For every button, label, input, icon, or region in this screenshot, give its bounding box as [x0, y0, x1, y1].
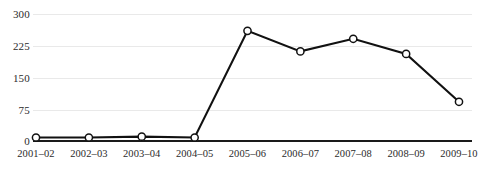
- line-chart: 300 225 150 75 0 2001–022002–032003–0420…: [0, 0, 480, 169]
- y-tick-label-150: 150: [0, 73, 30, 84]
- y-tick-label-225: 225: [0, 41, 30, 52]
- data-point-marker: [138, 133, 145, 140]
- data-point-marker: [455, 98, 462, 105]
- x-tick-label: 2007–08: [335, 148, 372, 160]
- x-tick-label: 2004–05: [176, 148, 213, 160]
- y-axis: 300 225 150 75 0: [0, 0, 30, 169]
- y-tick-label-75: 75: [0, 105, 30, 116]
- marker-group: [32, 27, 462, 141]
- x-tick-label: 2002–03: [70, 148, 107, 160]
- y-tick-label-0: 0: [0, 136, 30, 147]
- x-tick-label: 2008–09: [387, 148, 424, 160]
- data-point-marker: [191, 134, 198, 141]
- plot-area: [33, 0, 480, 169]
- x-tick-label: 2006–07: [282, 148, 319, 160]
- data-point-marker: [350, 35, 357, 42]
- x-tick-label: 2009–10: [440, 148, 477, 160]
- data-point-marker: [403, 50, 410, 57]
- x-tick-label: 2003–04: [123, 148, 160, 160]
- y-tick-label-300: 300: [0, 9, 30, 20]
- data-point-marker: [297, 48, 304, 55]
- x-tick-label: 2005–06: [229, 148, 266, 160]
- series-layer: [33, 0, 480, 169]
- data-point-marker: [244, 27, 251, 34]
- x-tick-label: 2001–02: [17, 148, 54, 160]
- series-line: [36, 31, 459, 138]
- x-axis: 2001–022002–032003–042004–052005–062006–…: [0, 148, 480, 166]
- data-point-marker: [85, 134, 92, 141]
- data-point-marker: [32, 134, 39, 141]
